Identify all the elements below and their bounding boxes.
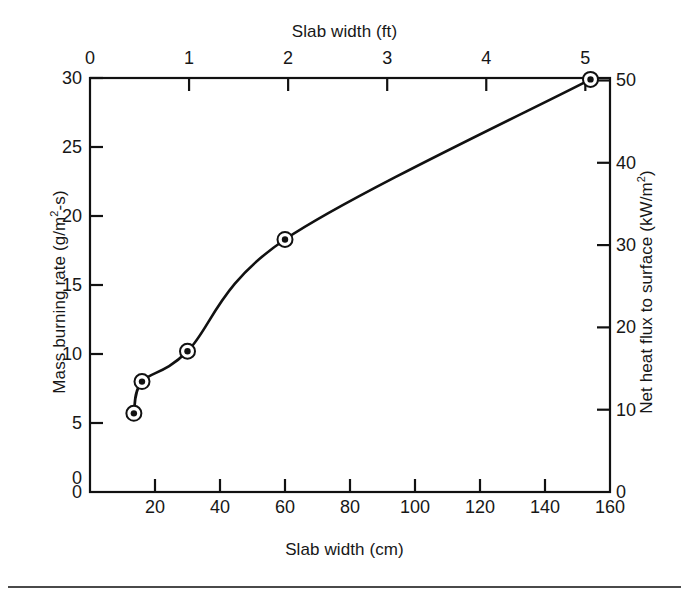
tick-label-left-20: 20	[62, 206, 82, 227]
tick-label-left-15: 15	[62, 275, 82, 296]
data-point-4	[587, 76, 593, 82]
left-axis-ticks	[90, 78, 103, 423]
tick-label-top-4: 4	[481, 48, 491, 69]
top-axis-ticks	[189, 78, 585, 91]
tick-label-top-5: 5	[580, 48, 590, 69]
tick-label-right-30: 30	[616, 235, 636, 256]
tick-label-right-0: 0	[616, 482, 626, 503]
bottom-axis-ticks	[155, 479, 545, 492]
tick-label-left-25: 25	[62, 137, 82, 158]
tick-label-bottom-20: 20	[145, 497, 165, 518]
tick-label-right-50: 50	[616, 70, 636, 91]
tick-label-bottom-140: 140	[530, 497, 560, 518]
right-axis-ticks	[597, 80, 610, 409]
data-point-2	[184, 348, 190, 354]
tick-label-bottom-100: 100	[400, 497, 430, 518]
data-point-3	[282, 236, 288, 242]
tick-label-bottom-80: 80	[340, 497, 360, 518]
data-point-1	[139, 378, 145, 384]
plot-frame	[90, 78, 610, 492]
figure-container: Slab width (ft) Slab width (cm) Mass bur…	[0, 0, 689, 600]
tick-label-right-40: 40	[616, 152, 636, 173]
tick-label-bottom-60: 60	[275, 497, 295, 518]
tick-label-left-30: 30	[62, 68, 82, 89]
tick-label-left-5: 5	[72, 413, 82, 434]
tick-label-bottom-120: 120	[465, 497, 495, 518]
page-divider-rule	[8, 586, 681, 588]
tick-label-top-3: 3	[382, 48, 392, 69]
tick-label-right-20: 20	[616, 317, 636, 338]
tick-label-top-2: 2	[283, 48, 293, 69]
data-markers	[126, 72, 598, 421]
tick-label-top-0: 0	[85, 48, 95, 69]
data-curve	[134, 79, 591, 413]
tick-label-left-10: 10	[62, 344, 82, 365]
tick-label-right-10: 10	[616, 399, 636, 420]
tick-label-bottom-40: 40	[210, 497, 230, 518]
data-point-0	[131, 410, 137, 416]
tick-label-left-0: 0	[72, 482, 82, 503]
tick-label-top-1: 1	[184, 48, 194, 69]
